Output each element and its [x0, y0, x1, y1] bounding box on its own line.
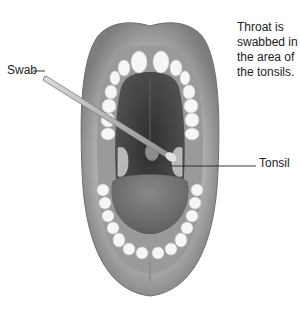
note-line: swabbed in [237, 35, 300, 50]
swab-label: Swab [7, 63, 37, 77]
note-line: the area of [237, 50, 300, 65]
note-line: Throat is [237, 20, 300, 35]
tonsil-label: Tonsil [259, 156, 290, 170]
procedure-note: Throat is swabbed in the area of the ton… [237, 20, 300, 80]
note-line: the tonsils. [237, 65, 300, 80]
